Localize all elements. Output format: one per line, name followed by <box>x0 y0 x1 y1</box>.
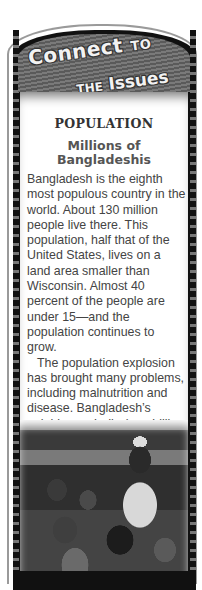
family-photo <box>20 420 188 571</box>
paragraph-1: Bangladesh is the eighth most populous c… <box>27 172 187 356</box>
banner-to: TO <box>129 36 152 54</box>
subheading-line1: Millions of <box>20 139 188 153</box>
topic-heading: POPULATION <box>20 116 188 131</box>
subheading-line2: Bangladeshis <box>20 153 188 167</box>
perforated-edge-right <box>190 30 196 571</box>
perforated-edge-left <box>13 30 19 571</box>
subheading: Millions of Bangladeshis <box>20 139 188 167</box>
